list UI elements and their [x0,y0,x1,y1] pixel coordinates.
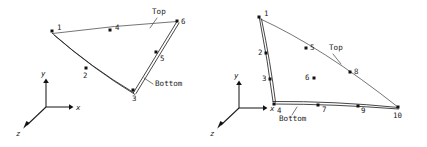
node-dot-5 [155,51,158,54]
node-label-1: 1 [57,23,61,32]
axis-arrow-x-right-panel [263,105,268,111]
axis-label-x-left-panel: x [75,103,81,112]
annotation-label-bottom-right-panel: Bottom [279,114,307,123]
node-dot-6 [313,77,316,80]
left-panel-axis-triad: x y z [16,69,81,138]
leader-line-bottom-left-panel [144,78,153,84]
node-label-5: 5 [160,54,164,63]
axis-label-x-right-panel: x [269,104,275,113]
node-dot-2 [85,67,88,70]
axis-label-z-left-panel: z [16,129,21,138]
annotation-label-bottom-left-panel: Bottom [155,79,183,88]
node-dot-10 [397,106,400,109]
axis-label-y-left-panel: y [40,69,46,78]
right-panel-node-labels: 1 2 3 4 5 6 7 8 9 10 [258,9,402,120]
right-panel-annotations: Top Bottom [279,43,343,123]
edge-top-right-panel [260,19,399,108]
node-label-9: 9 [361,106,365,115]
axis-label-y-right-panel: y [233,71,239,80]
axis-arrow-y-right-panel [236,81,242,86]
node-label-1: 1 [264,9,268,18]
edge-left-inner-right-panel [262,19,276,102]
node-label-4: 4 [115,23,120,32]
node-dot-4 [109,29,112,32]
node-dot-2 [265,52,268,55]
left-panel: 1 2 3 4 5 6 Top Bottom x y [16,7,185,138]
node-label-5: 5 [310,43,314,52]
edge-bottom-inner-right-panel [274,104,399,109]
right-panel-nodes [258,16,400,109]
node-label-10: 10 [393,111,402,120]
node-label-8: 8 [354,67,358,76]
annotation-label-top-left-panel: Top [152,7,166,16]
node-label-7: 7 [322,105,326,114]
node-label-3: 3 [132,94,136,103]
axis-arrow-z-right-panel [217,121,223,129]
axis-label-z-right-panel: z [210,129,215,138]
diagram-canvas: 1 2 3 4 5 6 Top Bottom x y [0,0,427,147]
axis-line-z-right-panel [221,108,239,125]
axis-arrow-z-left-panel [23,121,29,129]
node-dot-6 [176,20,179,23]
edge-left-outer-right-panel [260,19,274,102]
node-dot-1 [51,30,54,33]
axis-line-z-left-panel [27,107,46,125]
node-dot-5 [305,47,308,50]
node-label-2: 2 [258,48,262,57]
node-dot-3 [269,78,272,81]
right-panel: 1 2 3 4 5 6 7 8 9 10 Top Bottom [210,9,402,138]
left-panel-annotations: Top Bottom [144,7,183,88]
left-panel-node-labels: 1 2 3 4 5 6 [57,17,185,103]
node-label-3: 3 [262,74,266,83]
node-dot-9 [357,105,360,108]
node-label-6: 6 [305,73,309,82]
figure-root: 1 2 3 4 5 6 Top Bottom x y [0,0,427,147]
axis-arrow-y-left-panel [43,79,49,84]
axis-arrow-x-left-panel [69,104,74,110]
node-dot-8 [349,71,352,74]
right-panel-edges [260,19,399,110]
edge-bottom-outer-left-panel [53,34,134,93]
node-dot-7 [317,104,320,107]
node-label-2: 2 [83,71,87,80]
node-dot-1 [258,16,261,19]
node-dot-3 [132,89,135,92]
node-label-6: 6 [181,17,185,26]
annotation-label-top-right-panel: Top [329,43,343,52]
